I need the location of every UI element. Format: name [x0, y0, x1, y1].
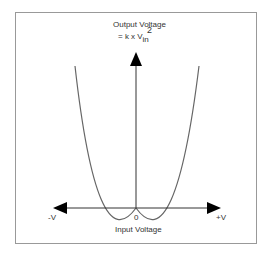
y-axis-label: Output Voltage — [113, 20, 166, 29]
parabola-curve — [75, 66, 199, 220]
formula-label: = k x Vin — [118, 32, 149, 41]
x-tick-negative: -V — [48, 213, 56, 222]
y-axis-up-arrowhead — [130, 52, 142, 66]
formula-superscript: 2 — [147, 25, 152, 35]
formula-prefix: = k x V — [118, 32, 143, 41]
x-tick-positive: +V — [216, 213, 226, 222]
x-axis-label: Input Voltage — [115, 225, 162, 234]
x-tick-zero: 0 — [134, 213, 138, 222]
formula-subscript: in — [143, 35, 149, 44]
